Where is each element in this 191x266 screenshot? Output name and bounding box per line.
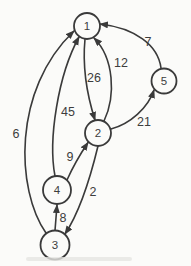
- node-3-label: 3: [52, 239, 58, 251]
- edge-weight-3-to-1: 6: [13, 127, 20, 141]
- edge-3-to-4: [55, 205, 57, 231]
- edge-weight-2-to-1: 12: [114, 56, 128, 70]
- edge-weight-4-to-1: 45: [61, 105, 75, 119]
- figure-canvas: 6 45 26 12 7 21 9 2 8 1 2 3 4 5: [0, 0, 191, 266]
- node-1: 1: [74, 13, 100, 39]
- node-4: 4: [43, 176, 71, 204]
- edge-weight-1-to-2: 26: [87, 71, 101, 85]
- node-4-label: 4: [54, 184, 61, 196]
- edge-weight-2-to-3: 2: [90, 185, 97, 199]
- node-2-label: 2: [95, 127, 101, 139]
- node-1-label: 1: [84, 20, 90, 32]
- edge-weight-5-to-1: 7: [145, 35, 152, 49]
- node-3: 3: [41, 231, 70, 260]
- node-2: 2: [85, 120, 111, 146]
- node-5-label: 5: [161, 75, 167, 87]
- node-5: 5: [152, 69, 177, 94]
- edge-weight-2-to-5: 21: [137, 115, 151, 129]
- edge-weight-4-to-2: 9: [67, 150, 74, 164]
- scan-artifact-smear: [26, 257, 132, 261]
- edge-5-to-1: [100, 24, 161, 68]
- edge-weight-3-to-4: 8: [60, 211, 67, 225]
- graph-diagram: 6 45 26 12 7 21 9 2 8 1 2 3 4 5: [0, 0, 191, 266]
